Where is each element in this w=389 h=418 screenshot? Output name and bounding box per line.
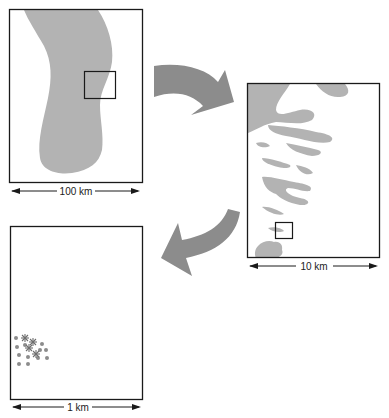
curved-arrow-right-icon (154, 65, 234, 115)
arrowhead-left-icon (12, 404, 21, 410)
scale-bar-100km: 100 km (11, 186, 140, 197)
scale-label-100km: 100 km (60, 186, 93, 197)
panel-1km (11, 227, 143, 400)
arrowhead-left-icon (249, 263, 258, 269)
arrowhead-left-icon (11, 188, 20, 194)
zoom-diagram: 100 km 10 km (0, 0, 389, 418)
scale-label-1km: 1 km (67, 402, 89, 413)
panel-frame (11, 227, 143, 400)
asterisk-icon (21, 334, 29, 342)
asterisk-icon (29, 338, 37, 346)
panel-100km (10, 10, 143, 183)
scale-label-10km: 10 km (300, 261, 327, 272)
large-feature-region (24, 10, 112, 173)
scale-bar-1km: 1 km (12, 402, 141, 413)
arrowhead-right-icon (369, 263, 378, 269)
asterisk-icon (32, 350, 40, 358)
curved-arrow-left-icon (161, 209, 240, 276)
asterisk-icon (25, 344, 33, 352)
arrowhead-right-icon (132, 404, 141, 410)
arrowhead-right-icon (131, 188, 140, 194)
scale-bar-10km: 10 km (249, 261, 378, 272)
banded-feature-patches (248, 84, 348, 258)
panel-10km (248, 84, 380, 259)
